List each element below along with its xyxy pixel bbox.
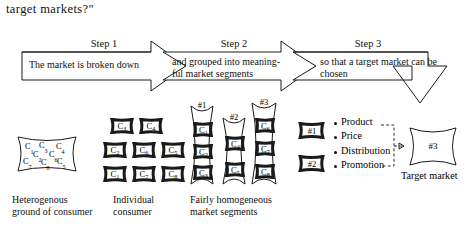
segment-1-member-1: C1: [194, 122, 213, 137]
segment-1-member-3: C3: [194, 165, 213, 180]
segments-caption-line-1: Fairly homogeneous: [190, 194, 272, 206]
target-market-caption: Target market: [401, 170, 458, 181]
marketing-mix-item-product: Product: [341, 116, 373, 127]
page-title: target markets?": [6, 2, 94, 16]
diagram-canvas: target markets?" Step 1 The market is br…: [0, 0, 473, 232]
segment-1-member-2: C2: [194, 144, 213, 159]
step-1-body-line-1: The market is broken down: [29, 59, 139, 71]
individual-cell-r2c3: C5: [162, 142, 184, 157]
marketing-mix-item-price: Price: [341, 130, 362, 141]
marketing-mix-item-distribution: Distribution: [341, 145, 390, 156]
segment-3-member-2: C7: [256, 141, 275, 156]
blob-member-c7: C7: [23, 157, 32, 168]
target-market-number: #3: [413, 141, 453, 151]
heterogeneous-caption-line-2: ground of consumer: [12, 206, 93, 218]
individual-cell-r1c2: C4: [140, 118, 162, 133]
segment-3-member-3: C8: [256, 164, 275, 179]
segment-3-member-1: C6: [256, 118, 275, 133]
individual-caption-line-2: consumer: [113, 206, 152, 218]
individual-cell-r3c2: C7: [133, 166, 155, 181]
heterogeneous-caption-line-1: Heterogenous: [12, 194, 68, 206]
step-3-label: Step 3: [323, 38, 413, 50]
blob-member-c8: C8: [41, 158, 50, 169]
segment-2-member-1: C4: [226, 136, 245, 151]
marketing-mix-item-promotion: Promotion: [341, 159, 384, 170]
individual-cell-r3c3: C8: [162, 166, 184, 181]
step-1-label: Step 1: [50, 38, 158, 50]
segment-1-number: #1: [189, 100, 215, 110]
step-2-label: Step 2: [185, 38, 283, 50]
blob-member-c5: C5: [57, 157, 66, 168]
individual-cell-r2c1: C2: [104, 142, 126, 157]
individual-cell-r1c1: C3: [111, 118, 133, 133]
segment-3-number: #3: [251, 97, 277, 107]
segment-2-member-2: C5: [226, 162, 245, 177]
individual-cell-r3c1: C1: [104, 166, 126, 181]
segment-2-number: #2: [221, 112, 247, 122]
individual-cell-r2c2: C6: [133, 142, 155, 157]
step-3-body-line-2: chosen: [320, 68, 348, 80]
segments-caption-line-2: market segments: [190, 206, 257, 218]
step-2-body-line-1: and grouped into meaning-: [172, 56, 280, 68]
step-2-body-line-2: ful market segments: [172, 68, 253, 80]
rejected-segment-2-number: #2: [299, 159, 325, 169]
rejected-segment-1-number: #1: [299, 126, 325, 136]
individual-caption-line-1: Individual: [113, 194, 154, 206]
step-3-body-line-1: so that a target market can be: [320, 56, 437, 68]
